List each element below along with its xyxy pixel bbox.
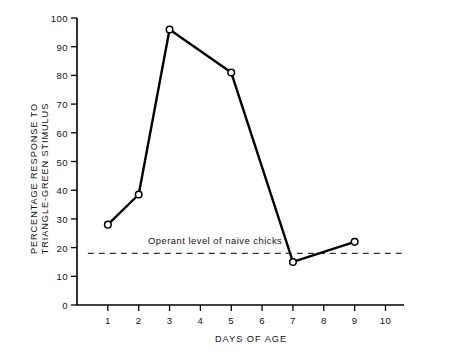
x-tick-label: 7 xyxy=(290,315,296,326)
y-tick-label: 60 xyxy=(36,127,68,138)
x-tick-label: 4 xyxy=(198,315,204,326)
x-tick-label: 3 xyxy=(167,315,173,326)
x-tick-label: 1 xyxy=(105,315,111,326)
data-point-marker xyxy=(351,239,358,246)
y-tick-label: 10 xyxy=(36,271,68,282)
data-point-marker xyxy=(105,221,112,228)
x-tick-label: 5 xyxy=(228,315,234,326)
x-axis-ticks xyxy=(108,305,386,311)
x-tick-label: 9 xyxy=(352,315,358,326)
data-point-marker xyxy=(290,259,297,266)
chart-plot-area xyxy=(0,0,466,357)
data-point-marker xyxy=(135,191,142,198)
y-tick-label: 40 xyxy=(36,185,68,196)
data-point-marker xyxy=(166,26,173,33)
y-tick-label: 100 xyxy=(36,13,68,24)
y-axis-ticks xyxy=(71,18,77,305)
x-tick-label: 2 xyxy=(136,315,142,326)
chart-figure: PERCENTAGE RESPONSE TO TRIANGLE-GREEN ST… xyxy=(0,0,466,357)
y-tick-label: 80 xyxy=(36,70,68,81)
y-tick-label: 70 xyxy=(36,99,68,110)
axes-group xyxy=(77,18,404,305)
data-series-group xyxy=(108,29,355,261)
y-tick-label: 0 xyxy=(36,300,68,311)
x-axis-title-text: DAYS OF AGE xyxy=(179,334,287,344)
y-tick-label: 90 xyxy=(36,41,68,52)
data-markers-group xyxy=(105,26,358,265)
x-axis-title: DAYS OF AGE xyxy=(0,334,466,344)
data-line xyxy=(108,29,355,261)
x-tick-label: 8 xyxy=(321,315,327,326)
y-tick-label: 30 xyxy=(36,213,68,224)
x-tick-label: 10 xyxy=(380,315,391,326)
data-point-marker xyxy=(228,69,235,76)
y-tick-label: 20 xyxy=(36,242,68,253)
x-tick-label: 6 xyxy=(259,315,265,326)
y-tick-label: 50 xyxy=(36,156,68,167)
operant-level-label: Operant level of naive chicks xyxy=(148,235,282,246)
